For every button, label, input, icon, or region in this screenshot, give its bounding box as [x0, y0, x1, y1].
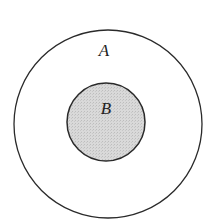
set-b-label: B — [101, 99, 112, 118]
diagram-svg: A B — [0, 0, 208, 220]
venn-diagram: A B — [0, 0, 208, 220]
set-b-circle — [67, 83, 145, 161]
set-a-label: A — [98, 41, 110, 60]
